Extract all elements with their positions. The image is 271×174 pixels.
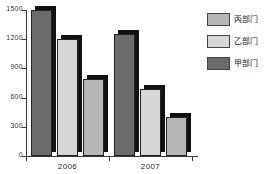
bar-2006-乙部门[interactable] xyxy=(57,39,78,156)
legend-label: 甲部门 xyxy=(234,59,258,68)
bar-chart: 1500 1200 900 600 300 0 2006 2007 xyxy=(0,0,271,174)
bar-2007-丙部门[interactable] xyxy=(166,117,187,156)
x-tick xyxy=(109,157,110,161)
legend-swatch-icon xyxy=(207,35,230,48)
y-axis-line xyxy=(26,10,27,157)
x-tick xyxy=(26,157,27,161)
x-group-label-2007: 2007 xyxy=(109,162,192,172)
y-tick-label: 300 xyxy=(10,122,23,130)
legend-swatch-icon xyxy=(207,13,230,26)
legend-item-yi[interactable]: 乙部门 xyxy=(207,30,269,52)
x-axis-line xyxy=(26,156,198,157)
legend-item-bing[interactable]: 丙部门 xyxy=(207,8,269,30)
y-tick-label: 1500 xyxy=(6,5,23,13)
legend-label: 乙部门 xyxy=(234,37,258,46)
bar-2007-甲部门[interactable] xyxy=(114,34,135,156)
bar-2007-乙部门[interactable] xyxy=(140,89,161,156)
x-tick xyxy=(192,157,193,161)
legend-item-jia[interactable]: 甲部门 xyxy=(207,52,269,74)
legend-label: 丙部门 xyxy=(234,15,258,24)
y-tick-label: 600 xyxy=(10,93,23,101)
legend-swatch-icon xyxy=(207,57,230,70)
bar-2006-甲部门[interactable] xyxy=(31,10,52,156)
y-tick-label: 1200 xyxy=(6,34,23,42)
plot-area: 1500 1200 900 600 300 0 2006 2007 xyxy=(26,10,198,157)
bar-2006-丙部门[interactable] xyxy=(83,79,104,156)
x-group-label-2006: 2006 xyxy=(26,162,109,172)
legend: 丙部门 乙部门 甲部门 xyxy=(207,8,269,74)
y-tick-label: 900 xyxy=(10,63,23,71)
y-tick-label: 0 xyxy=(19,151,23,159)
